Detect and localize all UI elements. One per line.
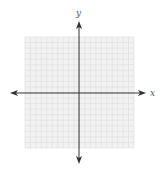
y-axis-label: y <box>75 8 82 18</box>
coordinate-plane: x y <box>0 0 163 169</box>
x-axis-label: x <box>150 88 155 98</box>
